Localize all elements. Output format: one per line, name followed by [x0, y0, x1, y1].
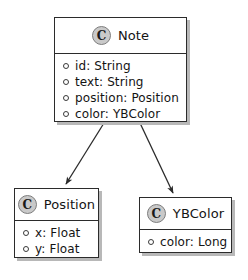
- attribute-label: color: YBColor: [75, 107, 160, 121]
- class-name-position: Position: [44, 197, 95, 212]
- class-header-position: C Position: [15, 189, 98, 221]
- class-circle-c-icon: C: [147, 204, 166, 223]
- attribute-label: color: Long: [160, 235, 227, 249]
- attribute-row: id: String: [55, 58, 186, 74]
- class-icon-letter: C: [23, 199, 33, 211]
- public-visibility-icon: [63, 95, 69, 101]
- attribute-row: color: Long: [140, 234, 231, 250]
- public-visibility-icon: [63, 63, 69, 69]
- public-visibility-icon: [63, 79, 69, 85]
- class-circle-c-icon: C: [92, 26, 111, 45]
- attribute-label: id: String: [75, 59, 131, 73]
- attribute-row: x: Float: [15, 225, 98, 241]
- attribute-row: y: Float: [15, 241, 98, 257]
- class-circle-c-icon: C: [18, 195, 37, 214]
- uml-class-diagram: C Note id: String text: String position:…: [0, 0, 248, 280]
- uml-class-ybcolor[interactable]: C YBColor color: Long: [139, 197, 232, 253]
- class-header-note: C Note: [55, 18, 186, 54]
- uml-class-position[interactable]: C Position x: Float y: Float: [14, 188, 99, 258]
- attribute-row: color: YBColor: [55, 106, 186, 122]
- class-header-ybcolor: C YBColor: [140, 198, 231, 230]
- attribute-compartment-ybcolor: color: Long: [140, 230, 231, 254]
- public-visibility-icon: [63, 111, 69, 117]
- connector-note-to-position: [66, 123, 104, 184]
- public-visibility-icon: [148, 239, 154, 245]
- public-visibility-icon: [23, 246, 29, 252]
- attribute-label: position: Position: [75, 91, 179, 105]
- uml-class-note[interactable]: C Note id: String text: String position:…: [54, 17, 187, 122]
- attribute-label: text: String: [75, 75, 144, 89]
- class-name-note: Note: [118, 28, 149, 43]
- attribute-label: x: Float: [35, 226, 80, 240]
- public-visibility-icon: [23, 230, 29, 236]
- class-icon-letter: C: [97, 30, 107, 42]
- attribute-compartment-note: id: String text: String position: Positi…: [55, 54, 186, 126]
- attribute-row: position: Position: [55, 90, 186, 106]
- connector-note-to-ybcolor: [140, 123, 173, 193]
- class-icon-letter: C: [152, 208, 162, 220]
- class-name-ybcolor: YBColor: [173, 206, 224, 221]
- attribute-label: y: Float: [35, 242, 80, 256]
- attribute-compartment-position: x: Float y: Float: [15, 221, 98, 261]
- attribute-row: text: String: [55, 74, 186, 90]
